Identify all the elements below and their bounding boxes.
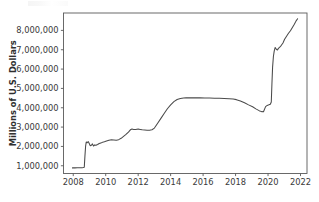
y-tick-label: 7,000,000 bbox=[16, 45, 58, 55]
x-tick-label: 2020 bbox=[257, 177, 278, 187]
x-tick-label: 2022 bbox=[290, 177, 311, 187]
data-line-total-assets bbox=[72, 19, 297, 168]
x-tick-label: 2010 bbox=[95, 177, 116, 187]
y-tick-label: 2,000,000 bbox=[16, 141, 58, 151]
y-tick-label: 8,000,000 bbox=[16, 25, 58, 35]
y-tick-label: 5,000,000 bbox=[16, 83, 58, 93]
y-tick-label: 3,000,000 bbox=[16, 122, 58, 132]
y-axis-title: Millions of U.S. Dollars bbox=[8, 40, 18, 146]
x-tick-label: 2016 bbox=[193, 177, 214, 187]
data-series-group bbox=[72, 19, 297, 168]
y-axis-tick-labels: 1,000,0002,000,0003,000,0004,000,0005,00… bbox=[16, 25, 58, 170]
x-axis-tick-labels: 20082010201220142016201820202022 bbox=[63, 177, 311, 187]
chart-figure: 1,000,0002,000,0003,000,0004,000,0005,00… bbox=[0, 0, 319, 202]
x-tick-label: 2018 bbox=[225, 177, 246, 187]
x-tick-label: 2012 bbox=[128, 177, 149, 187]
line-chart: 1,000,0002,000,0003,000,0004,000,0005,00… bbox=[0, 0, 319, 202]
x-tick-label: 2014 bbox=[160, 177, 181, 187]
scan-artifact bbox=[28, 1, 68, 6]
y-tick-label: 1,000,000 bbox=[16, 161, 58, 171]
y-tick-label: 4,000,000 bbox=[16, 103, 58, 113]
plot-frame bbox=[64, 13, 308, 174]
y-tick-label: 6,000,000 bbox=[16, 64, 58, 74]
x-tick-label: 2008 bbox=[63, 177, 84, 187]
